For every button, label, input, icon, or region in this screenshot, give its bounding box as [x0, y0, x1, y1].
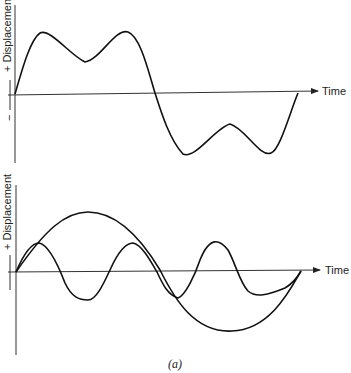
bottom-x-label: Time	[325, 264, 349, 276]
bottom-x-axis	[8, 270, 320, 272]
top-x-label: Time	[322, 85, 346, 97]
bottom-y-label: + Displacement	[1, 174, 13, 250]
top-x-axis	[8, 91, 318, 95]
bottom-panel: Time + Displacement	[1, 174, 349, 355]
top-y-label: + Displacement	[1, 0, 13, 72]
top-panel: Time + Displacement −	[1, 0, 346, 163]
waveform-figure: Time + Displacement − Time + Displacemen…	[0, 0, 351, 373]
top-y-minus: −	[3, 115, 15, 121]
figure-caption: (a)	[168, 357, 182, 371]
